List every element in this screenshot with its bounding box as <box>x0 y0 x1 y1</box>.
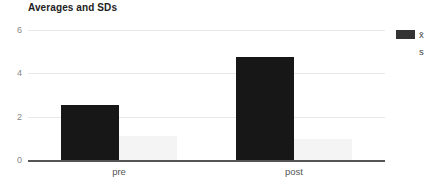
y-tick-label-0: 0 <box>2 155 22 165</box>
chart-title: Averages and SDs <box>28 2 117 13</box>
bar-post-mean <box>236 57 294 160</box>
y-tick-label-6: 6 <box>2 25 22 35</box>
chart-legend: x̄ s <box>396 26 439 60</box>
bar-post-sd <box>294 139 352 160</box>
y-tick-label-2: 2 <box>2 112 22 122</box>
legend-item-mean[interactable]: x̄ <box>396 26 439 43</box>
x-tick-label-post: post <box>285 166 303 177</box>
chart-container: Averages and SDs 6 4 2 0 pre post x̄ s <box>0 0 439 192</box>
legend-label-mean: x̄ <box>419 30 424 40</box>
x-axis-line <box>28 160 385 162</box>
plot-area <box>28 30 385 160</box>
y-tick-label-4: 4 <box>2 68 22 78</box>
gridline-6 <box>28 30 385 31</box>
gridline-4 <box>28 73 385 74</box>
bar-pre-mean <box>61 105 119 160</box>
y-axis: 6 4 2 0 <box>0 0 22 192</box>
bar-pre-sd <box>119 136 177 160</box>
legend-swatch-mean-icon <box>396 30 415 39</box>
legend-label-sd: s <box>419 47 424 57</box>
legend-item-sd[interactable]: s <box>396 43 439 60</box>
x-tick-label-pre: pre <box>112 166 126 177</box>
legend-swatch-sd-icon <box>396 47 415 56</box>
